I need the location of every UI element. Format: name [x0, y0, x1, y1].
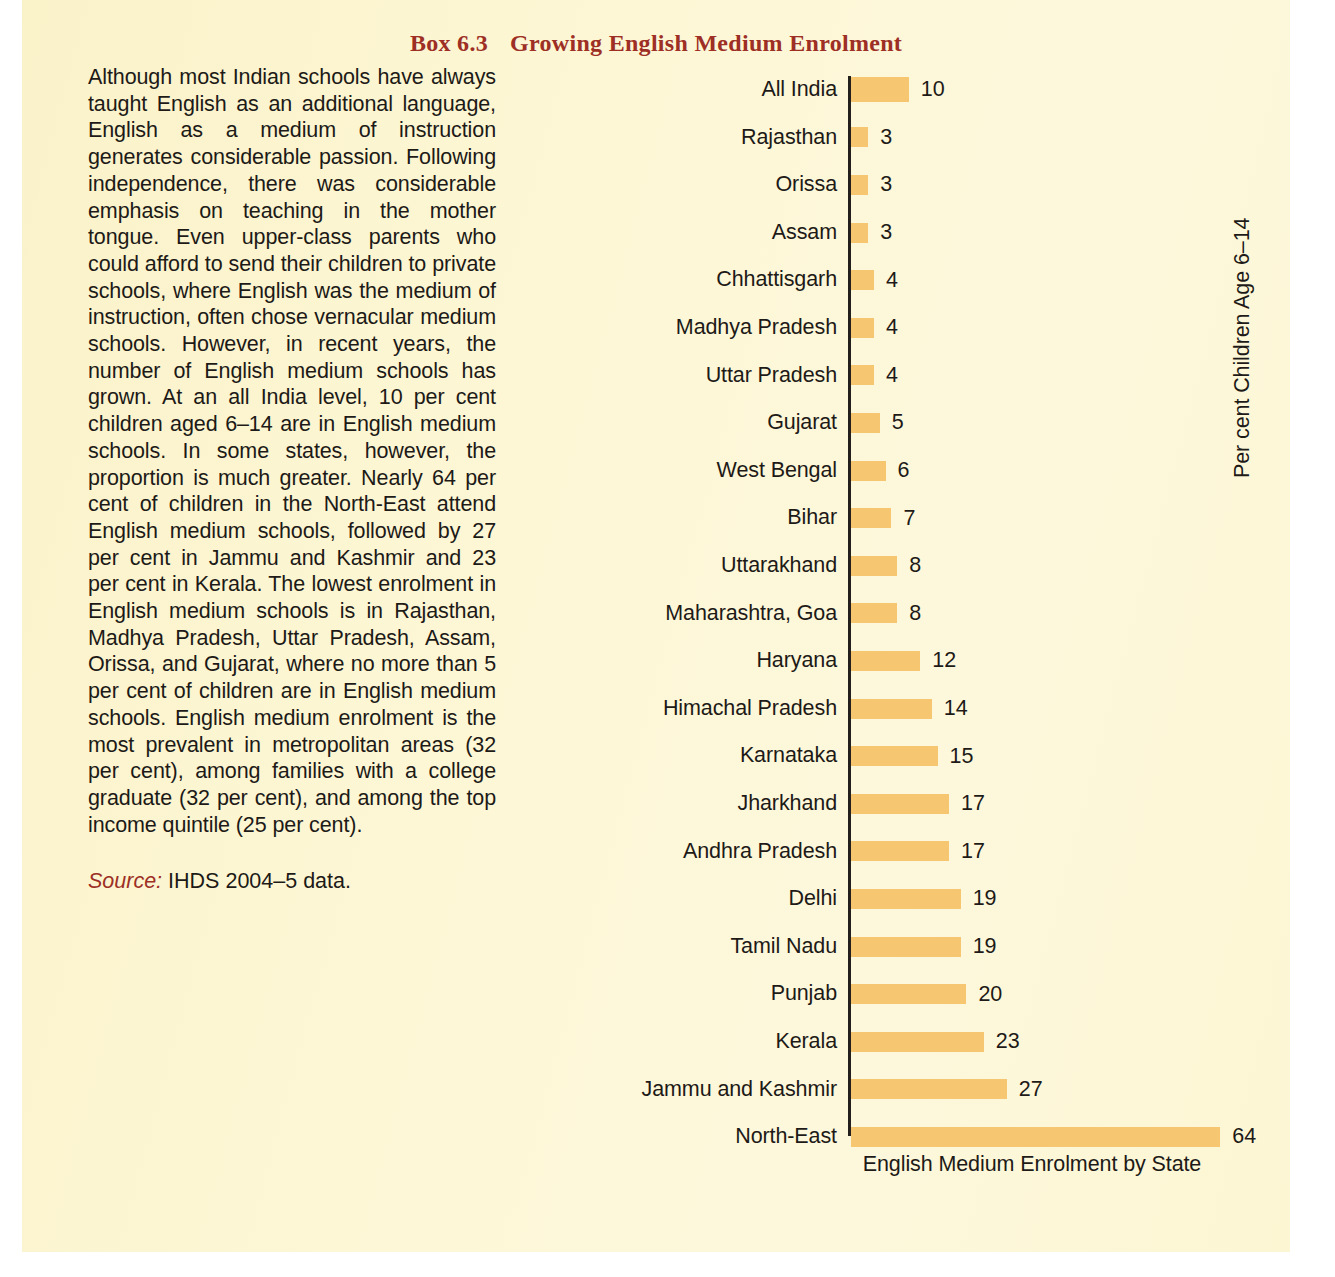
bar [851, 223, 868, 243]
source-note: Source: IHDS 2004–5 data. [88, 868, 496, 895]
bar-chart: All India10Rajasthan3Orissa3Assam3Chhatt… [522, 64, 1290, 1194]
bar [851, 984, 966, 1004]
bar-container: 3 [851, 209, 892, 257]
chart-row: Gujarat5 [522, 399, 1290, 447]
bar-container: 4 [851, 256, 898, 304]
bar-value-label: 3 [880, 172, 892, 197]
box-number: Box 6.3 [410, 30, 488, 56]
chart-row: Himachal Pradesh14 [522, 685, 1290, 733]
bar [851, 1032, 984, 1052]
bar-category-label: Himachal Pradesh [522, 685, 837, 733]
bar-category-label: Chhattisgarh [522, 256, 837, 304]
bar [851, 603, 897, 623]
bar-container: 4 [851, 304, 898, 352]
bar-category-label: Tamil Nadu [522, 923, 837, 971]
bar [851, 1127, 1220, 1147]
bar-container: 19 [851, 923, 997, 971]
bar-value-label: 23 [996, 1029, 1020, 1054]
chart-row: Kerala23 [522, 1018, 1290, 1066]
bar [851, 365, 874, 385]
bar-container: 10 [851, 66, 945, 114]
bar-category-label: Haryana [522, 637, 837, 685]
chart-row: Delhi19 [522, 875, 1290, 923]
bar-container: 14 [851, 685, 968, 733]
chart-row: Rajasthan3 [522, 114, 1290, 162]
bar-value-label: 15 [950, 744, 974, 769]
chart-row: Punjab20 [522, 970, 1290, 1018]
bar-container: 4 [851, 352, 898, 400]
bar-container: 20 [851, 970, 1002, 1018]
box-heading: Growing English Medium Enrolment [510, 30, 902, 56]
bar [851, 889, 961, 909]
bar-value-label: 8 [909, 601, 921, 626]
bar [851, 461, 886, 481]
bar-category-label: Bihar [522, 494, 837, 542]
bar-category-label: Uttarakhand [522, 542, 837, 590]
bar [851, 1079, 1007, 1099]
chart-row: Maharashtra, Goa8 [522, 590, 1290, 638]
bar-container: 3 [851, 161, 892, 209]
bar [851, 746, 938, 766]
y-axis-title: Per cent Children Age 6–14 [1230, 178, 1255, 478]
bar-value-label: 6 [898, 458, 910, 483]
bar-value-label: 17 [961, 791, 985, 816]
bar-value-label: 8 [909, 553, 921, 578]
bar-value-label: 17 [961, 839, 985, 864]
bar-category-label: Kerala [522, 1018, 837, 1066]
bar [851, 270, 874, 290]
bar-container: 17 [851, 780, 985, 828]
chart-row: Madhya Pradesh4 [522, 304, 1290, 352]
bar-category-label: Karnataka [522, 732, 837, 780]
bar-container: 8 [851, 590, 921, 638]
source-label: Source: [88, 869, 162, 893]
box-panel: Box 6.3Growing English Medium Enrolment … [22, 0, 1290, 1252]
bar-value-label: 4 [886, 363, 898, 388]
x-axis-title: English Medium Enrolment by State [732, 1152, 1332, 1177]
bar-container: 12 [851, 637, 956, 685]
bar [851, 508, 891, 528]
bar-value-label: 10 [921, 77, 945, 102]
bar-category-label: Delhi [522, 875, 837, 923]
bar-category-label: Madhya Pradesh [522, 304, 837, 352]
bar-value-label: 14 [944, 696, 968, 721]
bar-value-label: 19 [973, 934, 997, 959]
chart-plot-area: All India10Rajasthan3Orissa3Assam3Chhatt… [522, 64, 1290, 1139]
text-column: Although most Indian schools have always… [88, 64, 496, 895]
box-title: Box 6.3Growing English Medium Enrolment [22, 30, 1290, 57]
bar-category-label: Jharkhand [522, 780, 837, 828]
bar [851, 127, 868, 147]
bar-value-label: 4 [886, 315, 898, 340]
bar-category-label: Assam [522, 209, 837, 257]
bar-category-label: Gujarat [522, 399, 837, 447]
chart-row: Karnataka15 [522, 732, 1290, 780]
bar-category-label: Andhra Pradesh [522, 828, 837, 876]
bar [851, 651, 920, 671]
chart-row: Assam3 [522, 209, 1290, 257]
bar-value-label: 3 [880, 220, 892, 245]
bar-category-label: Uttar Pradesh [522, 352, 837, 400]
bar [851, 841, 949, 861]
bar-category-label: All India [522, 66, 837, 114]
bar-container: 19 [851, 875, 997, 923]
bar [851, 77, 909, 102]
chart-row: Tamil Nadu19 [522, 923, 1290, 971]
bar-container: 3 [851, 114, 892, 162]
bar [851, 175, 868, 195]
chart-row: All India10 [522, 66, 1290, 114]
chart-row: Orissa3 [522, 161, 1290, 209]
chart-row: Bihar7 [522, 494, 1290, 542]
chart-row: Haryana12 [522, 637, 1290, 685]
bar-category-label: Orissa [522, 161, 837, 209]
bar-value-label: 12 [932, 648, 956, 673]
source-value: IHDS 2004–5 data. [168, 869, 351, 893]
chart-row: Chhattisgarh4 [522, 256, 1290, 304]
bar [851, 556, 897, 576]
bar-category-label: Rajasthan [522, 114, 837, 162]
chart-row: West Bengal6 [522, 447, 1290, 495]
bar-value-label: 64 [1232, 1124, 1256, 1149]
bar-value-label: 27 [1019, 1077, 1043, 1102]
bar-category-label: Maharashtra, Goa [522, 590, 837, 638]
bar-value-label: 3 [880, 125, 892, 150]
bar [851, 794, 949, 814]
bar-value-label: 19 [973, 886, 997, 911]
